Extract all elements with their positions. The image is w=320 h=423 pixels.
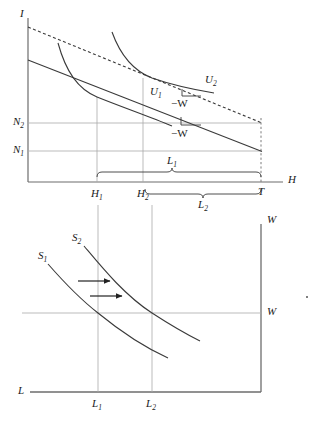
- upper-y-axis-label: I: [20, 8, 24, 19]
- x-tick-H1-text: H: [91, 187, 99, 199]
- y-tick-N1-sub: 1: [20, 149, 24, 158]
- curve-label-S1-text: S: [38, 249, 44, 261]
- brace-label-L1-sub: 1: [173, 160, 177, 169]
- wage-level-label: W: [267, 306, 276, 317]
- x-tick-H2-text: H: [137, 187, 145, 199]
- indifference-curve-2: [112, 32, 214, 93]
- brace-label-L1: L1: [167, 155, 177, 166]
- supply-curve-2: [84, 246, 200, 341]
- lower-y-axis-label: W: [267, 214, 276, 225]
- slope-label-upper: −W: [171, 98, 188, 109]
- x-tick-H1: H1: [91, 188, 103, 199]
- leisure-brace-L1: [97, 168, 261, 177]
- brace-label-L2: L2: [198, 199, 208, 210]
- x-tick-H1-sub: 1: [99, 193, 103, 202]
- x-tick-L1-sub: 1: [98, 403, 102, 412]
- curve-label-S2-sub: 2: [78, 237, 82, 246]
- y-tick-N2: N2: [13, 116, 24, 127]
- curve-label-U2-sub: 2: [213, 79, 217, 88]
- figure-canvas: I H N2 N1 H1 H2 T U1 U2 −W −W L1 L2 W L …: [0, 0, 320, 423]
- stray-mark: [306, 296, 308, 298]
- slope-label-lower: −W: [171, 128, 188, 139]
- budget-line-low-wage: [28, 60, 262, 152]
- x-tick-H2: H2: [137, 188, 149, 199]
- lower-x-axis-label: L: [18, 385, 24, 396]
- diagram-svg: [0, 0, 320, 423]
- y-tick-N1: N1: [13, 144, 24, 155]
- curve-label-U2: U2: [205, 74, 217, 85]
- x-tick-H2-sub: 2: [145, 193, 149, 202]
- x-tick-L2: L2: [146, 398, 156, 409]
- curve-label-U2-text: U: [205, 73, 213, 85]
- upper-x-axis-label: H: [288, 174, 296, 185]
- curve-label-U1: U1: [150, 86, 162, 97]
- y-tick-N2-sub: 2: [20, 121, 24, 130]
- curve-label-S2: S2: [72, 232, 81, 243]
- x-tick-L1: L1: [92, 398, 102, 409]
- curve-label-S1-sub: 1: [44, 255, 48, 264]
- curve-label-U1-text: U: [150, 85, 158, 97]
- x-tick-T: T: [258, 186, 264, 197]
- supply-curve-1: [48, 264, 168, 358]
- brace-label-L2-sub: 2: [204, 204, 208, 213]
- curve-label-U1-sub: 1: [158, 91, 162, 100]
- curve-label-S1: S1: [38, 250, 47, 261]
- curve-label-S2-text: S: [72, 231, 78, 243]
- leisure-brace-L2: [145, 189, 261, 198]
- x-tick-L2-sub: 2: [152, 403, 156, 412]
